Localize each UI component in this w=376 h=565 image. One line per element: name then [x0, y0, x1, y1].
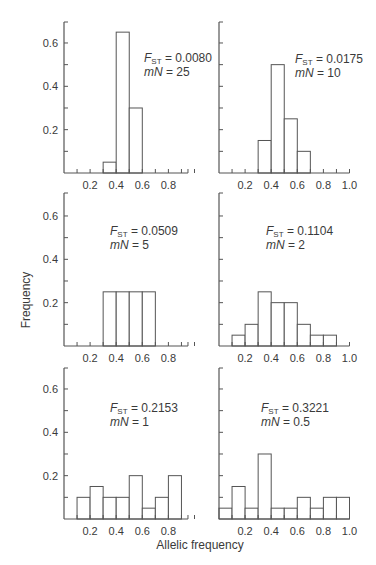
histogram-bar — [271, 303, 284, 346]
histogram-bar — [116, 32, 129, 173]
histogram-bar — [103, 162, 116, 173]
histogram-bar — [116, 497, 129, 519]
histogram-bar — [245, 324, 258, 346]
x-tick-label: 0.8 — [316, 179, 331, 191]
histogram-bar — [168, 476, 181, 519]
mn-annotation: mN = 0.5 — [261, 415, 310, 429]
histogram-bar — [258, 140, 271, 173]
histogram-bar — [297, 497, 310, 519]
histogram-bar — [77, 497, 90, 519]
x-tick-label: 0.8 — [161, 179, 176, 191]
histogram-bar — [258, 454, 271, 519]
mn-annotation: mN = 25 — [144, 65, 190, 79]
histogram-bar — [271, 508, 284, 519]
fst-annotation: FST = 0.2153 — [110, 401, 178, 416]
x-tick-label: 0.6 — [290, 179, 305, 191]
histogram-bar — [258, 292, 271, 346]
panels: 0.20.40.60.80.20.40.6FST = 0.0080mN = 25… — [43, 22, 364, 537]
histogram-bar — [142, 292, 155, 346]
histogram-bar — [297, 324, 310, 346]
histogram-bar — [284, 303, 297, 346]
panel-top-left: 0.20.40.60.80.20.40.6FST = 0.0080mN = 25 — [43, 22, 213, 191]
x-tick-label: 0.4 — [264, 352, 279, 364]
fst-annotation: FST = 0.1104 — [266, 224, 333, 239]
histogram-bar — [323, 497, 336, 519]
histogram-figure: Frequency Allelic frequency 0.20.40.60.8… — [0, 0, 376, 565]
y-tick-label: 0.4 — [43, 426, 58, 438]
histogram-bar — [271, 65, 284, 173]
x-tick-label: 0.8 — [161, 352, 176, 364]
histogram-bar — [245, 508, 258, 519]
panel-bottom-right: 0.20.40.60.81.0FST = 0.3221mN = 0.5 — [219, 368, 357, 537]
histogram-bar — [284, 508, 297, 519]
histogram-bar — [219, 508, 232, 519]
histogram-bar — [129, 476, 142, 519]
panel-middle-right: 0.20.40.60.81.0FST = 0.1104mN = 2 — [219, 193, 357, 364]
panel-top-right: 0.20.40.60.81.0FST = 0.0175mN = 10 — [219, 22, 363, 191]
y-tick-label: 0.4 — [43, 80, 58, 92]
x-tick-label: 0.8 — [316, 525, 331, 537]
x-tick-label: 0.2 — [82, 352, 97, 364]
y-tick-label: 0.2 — [43, 297, 58, 309]
x-tick-label: 0.6 — [135, 352, 150, 364]
x-tick-label: 0.4 — [109, 352, 124, 364]
x-tick-label: 1.0 — [342, 525, 357, 537]
mn-annotation: mN = 1 — [110, 415, 149, 429]
x-tick-label: 0.6 — [135, 179, 150, 191]
histogram-bar — [297, 151, 310, 173]
panel-middle-left: 0.20.40.60.80.20.40.6FST = 0.0509mN = 5 — [43, 193, 195, 364]
y-tick-label: 0.2 — [43, 470, 58, 482]
histogram-bar — [142, 508, 155, 519]
mn-annotation: mN = 10 — [295, 66, 341, 80]
histogram-bar — [103, 497, 116, 519]
x-axis-label: Allelic frequency — [156, 538, 243, 552]
x-tick-label: 1.0 — [342, 352, 357, 364]
histogram-bar — [310, 508, 323, 519]
y-tick-label: 0.4 — [43, 253, 58, 265]
histogram-bar — [129, 292, 142, 346]
x-tick-label: 0.2 — [237, 525, 252, 537]
x-tick-label: 1.0 — [342, 179, 357, 191]
mn-annotation: mN = 5 — [110, 238, 149, 252]
x-tick-label: 0.4 — [264, 525, 279, 537]
x-tick-label: 0.6 — [135, 525, 150, 537]
x-tick-label: 0.2 — [82, 179, 97, 191]
y-axis-label: Frequency — [19, 272, 33, 329]
x-tick-label: 0.6 — [290, 352, 305, 364]
histogram-bar — [323, 335, 336, 346]
x-tick-label: 0.8 — [316, 352, 331, 364]
histogram-bar — [336, 497, 349, 519]
histogram-bar — [116, 292, 129, 346]
panel-bottom-left: 0.20.40.60.80.20.40.6FST = 0.2153mN = 1 — [43, 368, 195, 537]
fst-annotation: FST = 0.0509 — [110, 224, 178, 239]
mn-annotation: mN = 2 — [266, 238, 305, 252]
y-tick-label: 0.6 — [43, 210, 58, 222]
fst-annotation: FST = 0.0080 — [144, 51, 212, 66]
x-tick-label: 0.2 — [237, 179, 252, 191]
histogram-bar — [232, 486, 245, 519]
fst-annotation: FST = 0.0175 — [295, 52, 363, 67]
y-tick-label: 0.6 — [43, 37, 58, 49]
x-tick-label: 0.6 — [290, 525, 305, 537]
histogram-bar — [284, 119, 297, 173]
histogram-bar — [310, 335, 323, 346]
x-tick-label: 0.4 — [109, 179, 124, 191]
histogram-bar — [129, 108, 142, 173]
fst-annotation: FST = 0.3221 — [261, 401, 329, 416]
y-tick-label: 0.2 — [43, 124, 58, 136]
x-tick-label: 0.4 — [264, 179, 279, 191]
histogram-bar — [90, 486, 103, 519]
x-tick-label: 0.8 — [161, 525, 176, 537]
x-tick-label: 0.2 — [237, 352, 252, 364]
histogram-bar — [232, 335, 245, 346]
x-tick-label: 0.4 — [109, 525, 124, 537]
x-tick-label: 0.2 — [82, 525, 97, 537]
histogram-bar — [155, 497, 168, 519]
y-tick-label: 0.6 — [43, 383, 58, 395]
histogram-bar — [103, 292, 116, 346]
